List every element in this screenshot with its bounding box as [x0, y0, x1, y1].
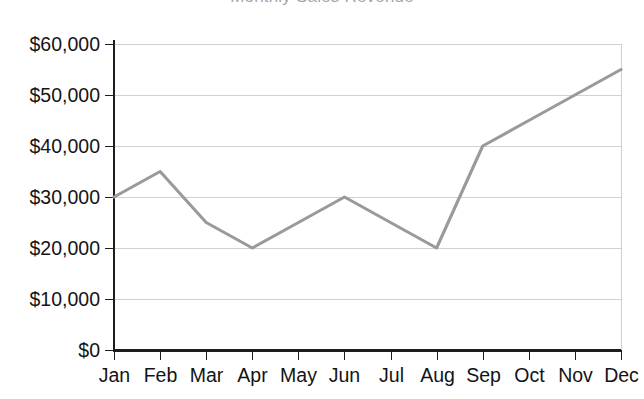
x-tick-label-dec: Dec — [604, 364, 639, 386]
y-tick-label: $30,000 — [30, 186, 101, 208]
chart-plot-area: $0$10,000$20,000$30,000$40,000$50,000$60… — [0, 0, 644, 399]
x-tick-label-feb: Feb — [144, 364, 178, 386]
x-tick-label-apr: Apr — [237, 364, 268, 386]
data-series-group — [114, 70, 621, 249]
axis-tick-marks — [105, 45, 622, 361]
x-axis-tick-labels: JanFebMarAprMayJunJulAugSepOctNovDec — [99, 364, 639, 386]
y-tick-label: $60,000 — [30, 33, 101, 55]
y-tick-label: $10,000 — [30, 288, 101, 310]
y-tick-label: $40,000 — [30, 135, 101, 157]
x-tick-label-sep: Sep — [466, 364, 501, 386]
line-chart-figure: Monthly Sales Revenue $0$10,000$20,000$3… — [0, 0, 644, 399]
x-tick-label-nov: Nov — [558, 364, 593, 386]
y-tick-label: $0 — [78, 339, 100, 361]
y-tick-label: $50,000 — [30, 84, 101, 106]
x-tick-label-aug: Aug — [420, 364, 455, 386]
x-tick-label-jul: Jul — [379, 364, 404, 386]
x-tick-label-oct: Oct — [514, 364, 545, 386]
y-tick-label: $20,000 — [30, 237, 101, 259]
x-tick-label-may: May — [280, 364, 317, 386]
x-tick-label-jun: Jun — [329, 364, 360, 386]
series-line-revenue — [114, 70, 621, 249]
x-tick-label-mar: Mar — [190, 364, 224, 386]
y-axis-tick-labels: $0$10,000$20,000$30,000$40,000$50,000$60… — [30, 33, 101, 361]
x-tick-label-jan: Jan — [99, 364, 130, 386]
gridlines — [114, 45, 622, 300]
